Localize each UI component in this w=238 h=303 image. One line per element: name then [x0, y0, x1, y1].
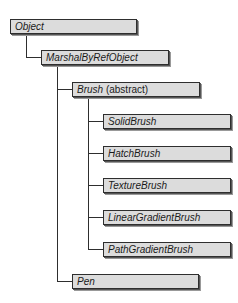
connector-marshal-pen-horizontal — [57, 281, 72, 282]
node-label: Object — [15, 21, 44, 32]
node-brush: Brush (abstract) — [72, 82, 200, 97]
connector-marshal-children-vertical — [57, 65, 58, 282]
connector-brush-hatch-horizontal — [88, 153, 103, 154]
connector-brush-children-vertical — [88, 96, 89, 250]
connector-object-marshal-vertical — [26, 34, 27, 58]
node-label: HatchBrush — [108, 148, 160, 159]
node-texturebrush: TextureBrush — [103, 178, 231, 193]
node-qualifier: (abstract) — [106, 84, 148, 95]
node-solidbrush: SolidBrush — [103, 114, 231, 129]
node-object: Object — [10, 19, 137, 34]
connector-brush-solid-horizontal — [88, 121, 103, 122]
node-hatchbrush: HatchBrush — [103, 146, 231, 161]
node-label: Brush — [77, 84, 103, 95]
node-label: Pen — [77, 276, 95, 287]
node-label: LinearGradientBrush — [108, 212, 200, 223]
node-marshalbyrefobject: MarshalByRefObject — [41, 50, 169, 65]
node-label: MarshalByRefObject — [46, 52, 138, 63]
connector-brush-texture-horizontal — [88, 185, 103, 186]
node-label: TextureBrush — [108, 180, 167, 191]
connector-brush-path-horizontal — [88, 249, 103, 250]
node-lineargradientbrush: LinearGradientBrush — [103, 210, 231, 225]
node-label: SolidBrush — [108, 116, 156, 127]
connector-marshal-brush-horizontal — [57, 89, 72, 90]
node-pen: Pen — [72, 274, 199, 289]
connector-brush-linear-horizontal — [88, 217, 103, 218]
node-label: PathGradientBrush — [108, 244, 193, 255]
connector-object-marshal-horizontal — [26, 57, 41, 58]
node-pathgradientbrush: PathGradientBrush — [103, 242, 231, 257]
